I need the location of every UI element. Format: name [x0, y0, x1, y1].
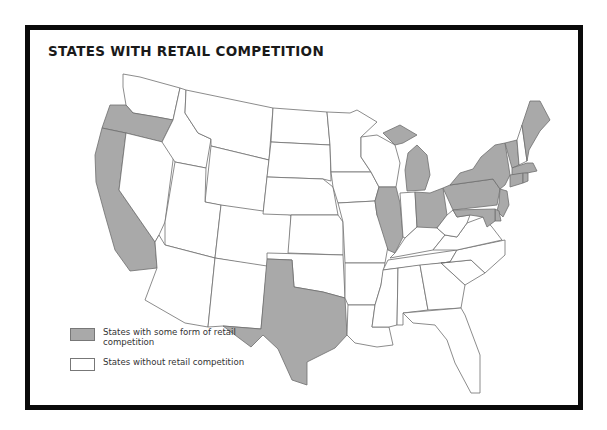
shaded-swatch — [70, 328, 95, 341]
state-rhode-island — [523, 173, 528, 183]
state-new-mexico — [208, 258, 267, 329]
state-kansas — [288, 215, 343, 255]
legend-item-shaded: States with some form of retail competit… — [70, 327, 273, 347]
state-nebraska — [263, 177, 338, 215]
legend-item-unshaded: States without retail competition — [70, 357, 273, 371]
state-florida — [403, 308, 480, 393]
legend-label-shaded: States with some form of retail competit… — [103, 327, 243, 347]
map-frame: STATES WITH RETAIL COMPETITION — [25, 25, 583, 410]
state-iowa — [331, 172, 379, 203]
legend-label-unshaded: States without retail competition — [103, 357, 273, 367]
state-maine — [522, 101, 550, 161]
state-north-dakota — [271, 108, 330, 145]
unshaded-swatch — [70, 358, 95, 371]
map-legend: States with some form of retail competit… — [70, 327, 273, 381]
state-south-dakota — [267, 142, 331, 181]
state-connecticut — [510, 173, 523, 187]
